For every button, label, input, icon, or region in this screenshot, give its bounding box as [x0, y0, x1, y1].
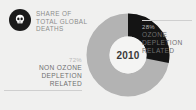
header: SHARE OF TOTAL GLOBAL DEATHS	[9, 9, 87, 33]
callout-non-ozone: 72% NON OZONE DEPLETION RELATED	[4, 57, 82, 91]
callout-non-ozone-percent: 72%	[4, 57, 82, 64]
page-title: SHARE OF TOTAL GLOBAL DEATHS	[36, 9, 87, 33]
donut-hole	[110, 37, 147, 74]
callout-rule	[142, 20, 192, 21]
callout-rule	[4, 90, 82, 91]
callout-non-ozone-label: NON OZONE DEPLETION RELATED	[4, 64, 82, 87]
callout-ozone: 28% OZONE DEPLETION RELATED	[142, 20, 192, 54]
infographic-canvas: SHARE OF TOTAL GLOBAL DEATHS 2010 28% OZ…	[0, 0, 196, 110]
callout-ozone-percent: 28%	[142, 24, 192, 31]
skull-icon	[9, 9, 31, 31]
callout-ozone-label: OZONE DEPLETION RELATED	[142, 31, 192, 54]
